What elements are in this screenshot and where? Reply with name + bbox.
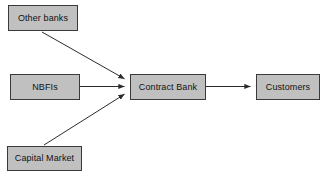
node-nbfis: NBFIs [10, 74, 80, 100]
node-capital-market-label: Capital Market [13, 154, 76, 163]
flow-diagram: Other banks NBFIs Capital Market Contrac… [0, 0, 333, 176]
connector-capital-market-to-contract-bank [44, 94, 125, 145]
node-nbfis-label: NBFIs [30, 83, 60, 92]
connector-other-banks-to-contract-bank [42, 32, 125, 79]
node-capital-market: Capital Market [7, 146, 82, 171]
node-contract-bank-label: Contract Bank [137, 83, 199, 92]
node-other-banks: Other banks [8, 5, 78, 31]
node-customers-label: Customers [264, 83, 312, 92]
node-other-banks-label: Other banks [16, 14, 70, 23]
node-contract-bank: Contract Bank [130, 74, 206, 100]
node-customers: Customers [256, 74, 320, 100]
